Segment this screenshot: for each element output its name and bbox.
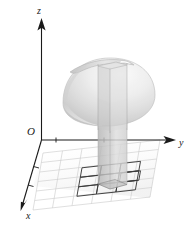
origin-label: O — [27, 125, 35, 137]
coordinate-figure: O y x z — [0, 0, 195, 226]
figure-container: O y x z — [0, 0, 195, 226]
x-axis-label: x — [25, 210, 31, 221]
riemann-column-upper — [98, 62, 127, 133]
base-grid — [33, 140, 160, 210]
y-axis-label: y — [178, 137, 184, 148]
column-upper-front-face — [110, 65, 127, 131]
z-axis-label: z — [36, 5, 41, 16]
column-upper-left-face — [98, 66, 110, 131]
